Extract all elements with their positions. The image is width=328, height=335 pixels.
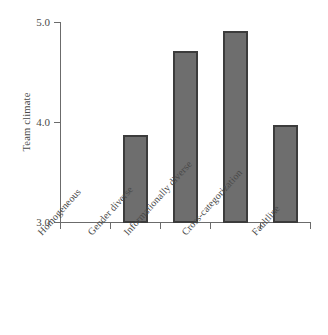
bar-chart-figure: 5.0 4.0 3.0 Team climate Homogeneous Gen…	[0, 0, 328, 335]
y-tick-label-top: 5.0	[36, 16, 50, 28]
y-tick-label-mid: 4.0	[36, 116, 50, 128]
y-axis-title: Team climate	[21, 92, 32, 151]
y-axis-title-group: Team climate	[21, 92, 32, 151]
chart-canvas: 5.0 4.0 3.0 Team climate Homogeneous Gen…	[0, 0, 328, 335]
bar-informationally-diverse	[224, 32, 247, 222]
bar-gender-diverse	[174, 52, 197, 222]
